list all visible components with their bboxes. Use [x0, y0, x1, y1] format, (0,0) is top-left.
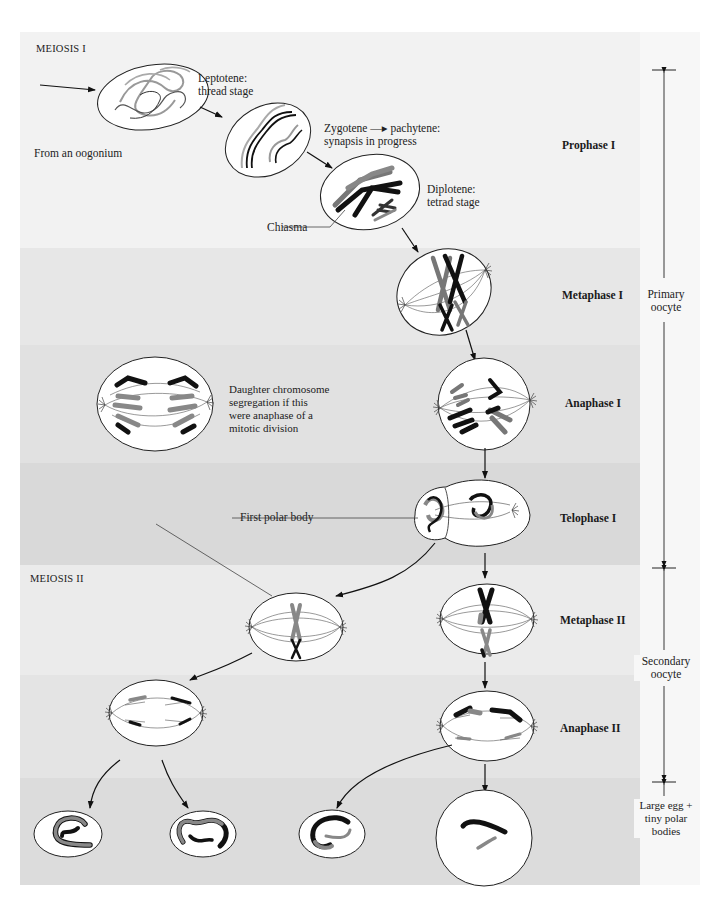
polar-body-1	[34, 811, 102, 857]
section-meiosis-1: MEIOSIS I	[36, 43, 86, 54]
polar-body-3	[299, 810, 365, 858]
label-final-products: Large egg + tiny polar bodies	[634, 799, 698, 838]
label-zygotene: Zygotene —▸ pachytene: synapsis in progr…	[324, 122, 440, 148]
label-diplotene: Diplotene: tetrad stage	[427, 183, 480, 209]
polar-body-2	[170, 811, 236, 857]
cell-metaphase-2	[436, 553, 538, 656]
stage-anaphase-1: Anaphase I	[565, 397, 621, 409]
label-first-polar-body: First polar body	[240, 511, 313, 524]
stage-telophase-1: Telophase I	[560, 512, 616, 524]
cell-zygotene	[200, 88, 324, 192]
cell-mitotic-comparison	[97, 357, 214, 451]
large-egg	[436, 790, 532, 886]
cell-anaphase-2	[436, 662, 538, 761]
cell-anaphase-1	[433, 330, 537, 450]
cell-telophase-1	[232, 448, 530, 546]
label-from-oogonium: From an oogonium	[34, 147, 122, 160]
label-primary-oocyte: Primary oocyte	[640, 288, 692, 314]
cell-polar-body-anaphase-2	[105, 653, 252, 746]
cell-type-bracket	[652, 70, 676, 796]
label-chiasma: Chiasma	[267, 221, 307, 234]
cell-metaphase-1	[383, 228, 506, 350]
stage-metaphase-2: Metaphase II	[560, 614, 626, 626]
section-meiosis-2: MEIOSIS II	[30, 573, 84, 584]
cell-polar-body-metaphase-2	[156, 524, 435, 661]
label-mitotic-comparison: Daughter chromosome segregation if this …	[229, 383, 330, 435]
stage-metaphase-1: Metaphase I	[562, 289, 623, 301]
stage-prophase-1: Prophase I	[562, 139, 615, 151]
stage-anaphase-2: Anaphase II	[560, 722, 620, 734]
label-leptotene: Leptotene: thread stage	[198, 72, 253, 98]
label-secondary-oocyte: Secondary oocyte	[634, 655, 698, 681]
cell-oogonium-leptotene	[40, 56, 214, 138]
